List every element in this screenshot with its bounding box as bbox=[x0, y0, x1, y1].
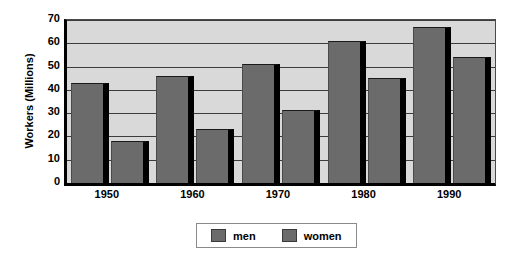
bar-women-1970 bbox=[282, 110, 320, 183]
y-axis-tick-labels: 010203040506070 bbox=[34, 14, 60, 184]
legend-entry-men: men bbox=[211, 229, 256, 242]
legend-swatch-icon bbox=[282, 229, 297, 242]
y-tick-label: 40 bbox=[34, 83, 60, 94]
bar-men-1950 bbox=[71, 83, 109, 183]
y-tick-label: 70 bbox=[34, 13, 60, 24]
legend-label: women bbox=[304, 230, 342, 242]
y-tick-label: 0 bbox=[34, 176, 60, 187]
y-tick-label: 50 bbox=[34, 60, 60, 71]
legend-swatch-icon bbox=[211, 229, 226, 242]
legend-entry-women: women bbox=[282, 229, 342, 242]
bar-men-1960 bbox=[156, 76, 194, 183]
bar-series-container bbox=[67, 20, 495, 183]
x-tick-label: 1960 bbox=[162, 188, 222, 200]
bar-men-1970 bbox=[242, 64, 280, 183]
bar-women-1980 bbox=[368, 78, 406, 183]
bar-men-1990 bbox=[413, 27, 451, 183]
chart-legend: menwomen bbox=[196, 223, 357, 248]
x-axis-tick-labels: 19501960197019801990 bbox=[64, 188, 492, 206]
x-tick-label: 1980 bbox=[334, 188, 394, 200]
x-tick-label: 1950 bbox=[77, 188, 137, 200]
bar-women-1990 bbox=[453, 57, 491, 183]
x-tick-label: 1970 bbox=[248, 188, 308, 200]
bar-chart-figure: Workers (Millions) 010203040506070 19501… bbox=[0, 0, 509, 261]
y-tick-label: 30 bbox=[34, 106, 60, 117]
plot-area bbox=[64, 19, 496, 186]
bar-women-1960 bbox=[196, 129, 234, 183]
y-tick-label: 10 bbox=[34, 153, 60, 164]
bar-men-1980 bbox=[328, 41, 366, 183]
legend-label: men bbox=[233, 230, 256, 242]
x-tick-label: 1990 bbox=[419, 188, 479, 200]
bar-women-1950 bbox=[111, 141, 149, 183]
y-tick-label: 60 bbox=[34, 36, 60, 47]
y-tick-label: 20 bbox=[34, 129, 60, 140]
